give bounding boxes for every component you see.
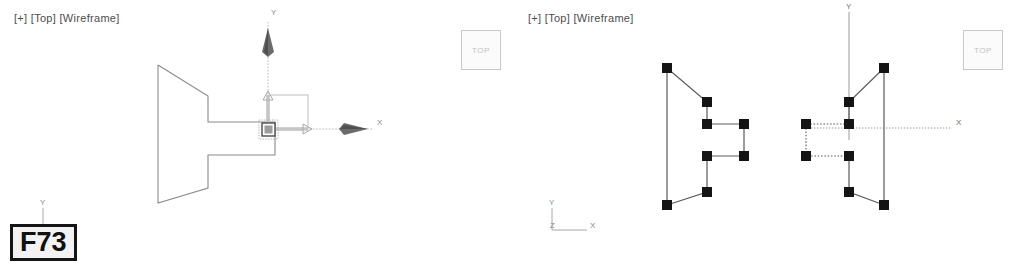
tripod-right-x-label: X: [590, 221, 596, 230]
vertex-handle[interactable]: [702, 97, 712, 107]
viewport-right[interactable]: [+] [Top] [Wireframe] Y X: [450, 0, 1015, 267]
gizmo-origin-box-inner: [265, 126, 273, 134]
tripod-left-y-label: Y: [40, 198, 46, 207]
vertex-handle[interactable]: [662, 200, 672, 210]
gizmo-x-axis-label: X: [377, 118, 383, 127]
gizmo-y-axis-label: Y: [271, 8, 277, 17]
vertex-handle[interactable]: [844, 151, 854, 161]
vertex-handle[interactable]: [739, 119, 749, 129]
vertex-handle[interactable]: [739, 151, 749, 161]
vertex-handle[interactable]: [702, 151, 712, 161]
spline-profile-outline[interactable]: [158, 65, 275, 203]
vertex-handle[interactable]: [702, 119, 712, 129]
view-cube-top-left[interactable]: TOP: [461, 30, 501, 70]
vertex-handle[interactable]: [662, 63, 672, 73]
viewport-right-canvas: Y X: [450, 0, 1015, 267]
vertex-handle[interactable]: [702, 187, 712, 197]
spline-profile-solid-outline[interactable]: [667, 68, 744, 205]
vertex-handle[interactable]: [801, 119, 811, 129]
spline-profile-mirrored[interactable]: [801, 63, 889, 210]
spline-profile-mirrored-outline-solid-2[interactable]: [849, 68, 884, 124]
tripod-right-z-label: Z: [550, 221, 555, 230]
vertex-handle[interactable]: [844, 97, 854, 107]
vertex-handle-group-solid[interactable]: [662, 63, 749, 210]
move-transform-gizmo[interactable]: Y X: [259, 8, 383, 139]
spline-profile-solid[interactable]: [662, 63, 749, 210]
vertex-handle[interactable]: [801, 151, 811, 161]
frame-label-badge-text: F73: [20, 227, 67, 257]
viewport-left[interactable]: [+] [Top] [Wireframe] Y: [0, 0, 450, 267]
vertex-handle[interactable]: [879, 63, 889, 73]
vertex-handle[interactable]: [879, 200, 889, 210]
frame-label-badge: F73: [10, 224, 77, 261]
axis-y-label: Y: [846, 2, 852, 11]
view-cube-top-right[interactable]: TOP: [963, 30, 1003, 70]
tripod-right-y-label: Y: [549, 198, 555, 207]
vertex-handle-group-mirrored[interactable]: [801, 63, 889, 210]
vertex-handle[interactable]: [844, 119, 854, 129]
screenshot-stage: [+] [Top] [Wireframe] Y: [0, 0, 1015, 267]
world-axis-tripod-right: Y Z X: [549, 198, 596, 230]
spline-profile-mirrored-outline-solid[interactable]: [849, 68, 884, 205]
axis-x-label: X: [956, 118, 962, 127]
spline-profile-mirrored-outline-dotted[interactable]: [806, 124, 849, 156]
vertex-handle[interactable]: [844, 187, 854, 197]
view-cube-top-right-label: TOP: [974, 46, 992, 55]
view-cube-top-left-label: TOP: [472, 46, 490, 55]
